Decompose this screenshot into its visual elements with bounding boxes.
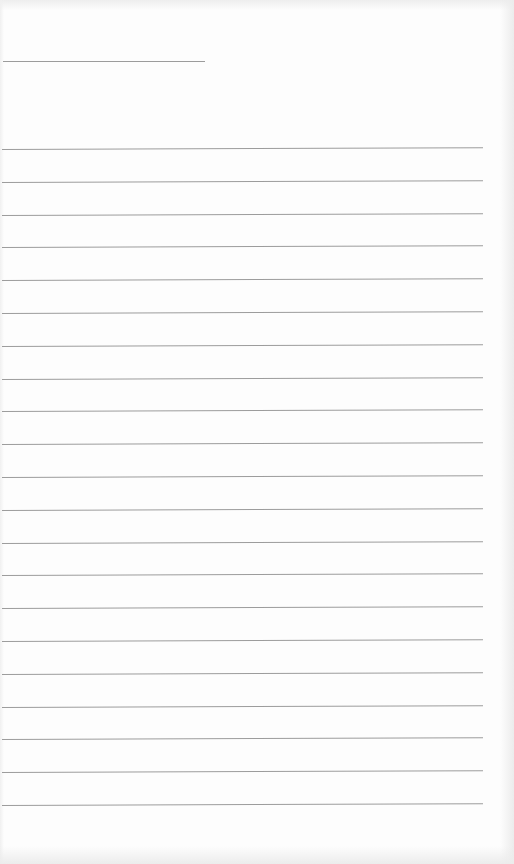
- ruled-line: [2, 147, 483, 150]
- scan-shadow-bottom: [0, 846, 514, 864]
- ruled-line: [2, 639, 483, 642]
- scan-shadow-top: [0, 0, 514, 10]
- ruled-line: [2, 245, 483, 248]
- ruled-line: [2, 442, 483, 445]
- scan-shadow-right: [500, 0, 514, 864]
- ruled-line: [2, 705, 483, 708]
- ruled-line: [2, 377, 483, 380]
- title-underline: [3, 61, 205, 62]
- lined-paper-page: [0, 0, 514, 864]
- scan-shadow-left: [0, 0, 4, 864]
- ruled-line: [2, 213, 483, 216]
- ruled-line: [2, 672, 483, 675]
- ruled-line: [2, 606, 483, 609]
- ruled-line: [2, 278, 483, 281]
- ruled-line: [2, 573, 483, 576]
- ruled-line: [2, 344, 483, 347]
- ruled-line: [2, 541, 483, 544]
- ruled-line: [2, 803, 483, 806]
- ruled-line: [2, 311, 483, 314]
- ruled-line: [2, 508, 483, 511]
- ruled-line: [2, 737, 483, 740]
- ruled-line: [2, 180, 483, 183]
- ruled-line: [2, 475, 483, 478]
- ruled-line: [2, 770, 483, 773]
- ruled-line: [2, 409, 483, 412]
